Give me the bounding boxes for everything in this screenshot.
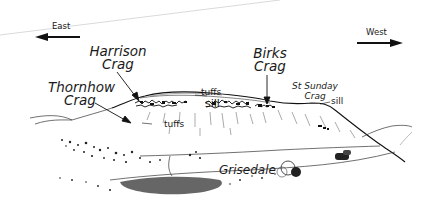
tree-clump-1 [277, 161, 301, 177]
landscape-diagram: East West Harrison Crag Thornhow Crag Bi… [0, 0, 426, 218]
peak-label-thornhow-crag: Thornhow Crag [48, 81, 112, 107]
leader-arrows [95, 72, 270, 123]
tree-clump-2 [335, 150, 351, 160]
sill-crag-band [135, 100, 273, 108]
sill-right-label: sill [331, 97, 343, 106]
tuffs-upper-label: tuffs [201, 88, 221, 97]
crop-line [0, 0, 280, 35]
valley-label-grisedale: Grisedale [219, 164, 276, 176]
dark-valley-band [120, 177, 222, 195]
peak-label-birks-crag: Birks Crag [250, 47, 290, 73]
vegetation-stipple [61, 139, 201, 163]
west-arrow-icon [357, 39, 403, 47]
crag-patch [318, 125, 329, 130]
tuffs-lower-label: tuffs [164, 120, 184, 129]
far-hill [362, 125, 412, 137]
sill-main-label: sill [205, 98, 220, 109]
east-label: East [52, 22, 70, 31]
west-label: West [366, 28, 387, 37]
east-arrow-icon [35, 33, 80, 41]
left-ridge-lines [30, 108, 112, 124]
peak-label-harrison-crag: Harrison Crag [88, 45, 148, 71]
